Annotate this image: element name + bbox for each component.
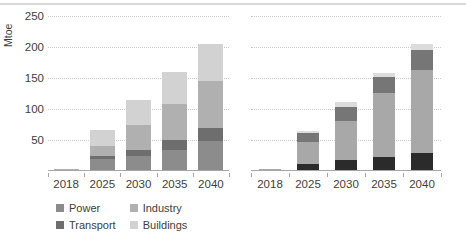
bar-segment-buildings[interactable] — [126, 100, 151, 125]
bar-segment-europe[interactable] — [373, 93, 395, 157]
x-tick — [327, 173, 328, 177]
bar-segment-power[interactable] — [198, 141, 223, 170]
legend-label: Buildings — [143, 217, 188, 233]
bar-group — [48, 16, 229, 171]
legend-swatch-icon — [130, 221, 138, 229]
legend-swatch-icon — [56, 221, 64, 229]
chart-by-region: 20182025203020352040 North AmericaAsia P… — [233, 0, 466, 238]
legend-label: Transport — [69, 217, 116, 233]
legend-swatch-icon — [130, 204, 138, 212]
x-axis-labels: 20182025203020352040 — [251, 173, 441, 193]
plot-area — [48, 16, 229, 171]
bar-segment-transport[interactable] — [162, 140, 187, 150]
legend-item[interactable]: Industry — [130, 200, 188, 216]
x-tick — [48, 173, 49, 177]
chart-by-sector: Mtoe 50100150200250 20182025203020352040… — [0, 0, 233, 238]
legend-swatch-icon — [56, 204, 64, 212]
figure: Mtoe 50100150200250 20182025203020352040… — [0, 0, 466, 238]
y-tick-label: 150 — [4, 72, 44, 84]
bar-2035[interactable] — [373, 73, 395, 170]
bar-segment-power[interactable] — [126, 156, 151, 170]
bar-segment-power[interactable] — [90, 159, 115, 170]
y-tick-label: 250 — [4, 10, 44, 22]
x-axis-line — [251, 170, 441, 171]
bar-segment-industry[interactable] — [198, 81, 223, 128]
x-axis-label-2040: 2040 — [399, 178, 445, 190]
x-tick — [120, 173, 121, 177]
bar-segment-power[interactable] — [162, 150, 187, 170]
legend-item[interactable]: Buildings — [130, 217, 188, 233]
plot-area — [251, 16, 441, 171]
bar-segment-asia-pacific[interactable] — [373, 77, 395, 93]
bar-2040[interactable] — [198, 44, 223, 170]
bar-segment-transport[interactable] — [90, 156, 115, 160]
x-tick — [84, 173, 85, 177]
bar-segment-asia-pacific[interactable] — [297, 133, 319, 142]
bar-segment-industry[interactable] — [90, 146, 115, 156]
x-tick — [289, 173, 290, 177]
legend-item[interactable]: Transport — [56, 217, 116, 233]
y-tick-label: 200 — [4, 41, 44, 53]
bar-segment-rest-of-world[interactable] — [335, 102, 357, 107]
x-axis-label-2040: 2040 — [188, 178, 234, 190]
bar-segment-europe[interactable] — [297, 142, 319, 164]
bar-segment-north-america[interactable] — [411, 153, 433, 170]
bar-segment-buildings[interactable] — [162, 72, 187, 104]
bar-segment-asia-pacific[interactable] — [335, 107, 357, 121]
bar-2040[interactable] — [411, 44, 433, 170]
x-axis-line — [48, 170, 229, 171]
bar-2025[interactable] — [90, 130, 115, 170]
x-tick — [193, 173, 194, 177]
legend-item[interactable]: Power — [56, 200, 116, 216]
legend: PowerIndustryTransportBuildings — [56, 200, 187, 233]
y-axis-ticks: 50100150200250 — [0, 16, 44, 172]
y-tick-label: 50 — [4, 134, 44, 146]
x-tick — [365, 173, 366, 177]
bar-segment-rest-of-world[interactable] — [411, 44, 433, 50]
x-tick — [157, 173, 158, 177]
y-tick-label: 100 — [4, 103, 44, 115]
x-tick — [403, 173, 404, 177]
x-axis-labels: 20182025203020352040 — [48, 173, 229, 193]
bar-segment-north-america[interactable] — [335, 160, 357, 170]
bar-group — [251, 16, 441, 171]
bar-segment-buildings[interactable] — [198, 44, 223, 81]
x-tick — [441, 173, 442, 177]
x-tick — [229, 173, 230, 177]
bar-segment-asia-pacific[interactable] — [411, 50, 433, 70]
bar-segment-rest-of-world[interactable] — [373, 73, 395, 77]
bar-segment-buildings[interactable] — [90, 130, 115, 146]
bar-segment-transport[interactable] — [198, 128, 223, 142]
bar-segment-rest-of-world[interactable] — [297, 131, 319, 133]
bar-segment-europe[interactable] — [411, 70, 433, 154]
bar-segment-north-america[interactable] — [373, 157, 395, 170]
bar-segment-industry[interactable] — [162, 104, 187, 140]
bar-segment-industry[interactable] — [126, 125, 151, 149]
bar-2035[interactable] — [162, 72, 187, 170]
bar-segment-europe[interactable] — [335, 121, 357, 160]
x-tick — [251, 173, 252, 177]
bar-2030[interactable] — [126, 100, 151, 170]
bar-2025[interactable] — [297, 131, 319, 170]
legend-label: Industry — [143, 200, 182, 216]
bar-2030[interactable] — [335, 102, 357, 170]
legend-label: Power — [69, 200, 100, 216]
bar-segment-transport[interactable] — [126, 150, 151, 156]
